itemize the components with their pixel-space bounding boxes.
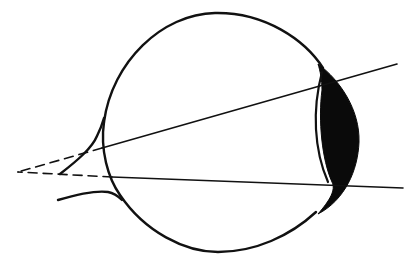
focal-point: [17, 171, 19, 173]
lens: [316, 64, 359, 214]
diagram-canvas: [0, 0, 412, 265]
optic-nerve: [58, 118, 122, 200]
eyeball: [103, 13, 323, 252]
